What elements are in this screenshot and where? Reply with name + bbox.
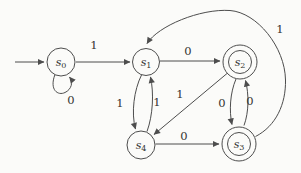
state-s4-label-sub: 4: [141, 144, 146, 153]
state-s0-label: s0: [56, 56, 67, 71]
state-s4: s4: [127, 131, 155, 159]
transition-s4-s1-edge: [147, 77, 153, 132]
state-s1: s1: [133, 49, 160, 76]
state-s2-label: s2: [235, 56, 246, 71]
state-s2-label-sub: 2: [240, 61, 245, 70]
state-s1-label: s1: [141, 56, 152, 71]
transition-s4-s3-label: 0: [180, 129, 187, 143]
state-s0: s0: [47, 48, 75, 76]
transition-s0-s1-label: 1: [90, 38, 97, 52]
state-s2: s2: [223, 45, 257, 79]
transition-s4-s1-label: 1: [153, 95, 160, 109]
automaton-figure: 0 1 0 1 1 1 0 0 0 1 s0: [0, 0, 301, 173]
transition-s3-s1-label: 1: [276, 22, 283, 36]
state-s3-label: s3: [234, 138, 245, 153]
transition-s3-s1-edge: [147, 10, 286, 136]
state-s3-label-sub: 3: [239, 143, 244, 152]
transition-s0-s0-label: 0: [67, 93, 74, 107]
transition-s1-s4-edge: [133, 75, 141, 129]
transition-s2-s3-label: 0: [218, 96, 225, 110]
transition-s2-s4-label: 1: [176, 87, 183, 101]
transition-s0-s0-edge: [53, 75, 72, 94]
state-s3: s3: [222, 127, 256, 161]
state-s4-label: s4: [136, 139, 147, 154]
transition-s2-s4-edge: [154, 74, 227, 135]
transition-s1-s2-label: 0: [184, 44, 191, 58]
state-s0-label-sub: 0: [61, 61, 66, 70]
transition-s1-s4-label: 1: [116, 96, 123, 110]
transition-s2-s3-edge: [230, 79, 236, 125]
state-s1-label-sub: 1: [146, 61, 151, 70]
transition-s3-s2-label: 0: [246, 94, 253, 108]
automaton-diagram: 0 1 0 1 1 1 0 0 0 1 s0: [0, 0, 301, 173]
